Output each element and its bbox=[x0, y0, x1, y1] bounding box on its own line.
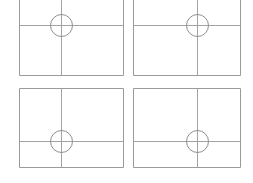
panels-group bbox=[20, 0, 241, 168]
panel-top-right-frame bbox=[134, 0, 241, 76]
panel-bottom-right bbox=[134, 89, 241, 168]
panel-grid-svg bbox=[0, 0, 253, 183]
panel-top-left-frame bbox=[20, 0, 124, 76]
panel-bottom-right-frame bbox=[134, 89, 241, 168]
panel-top-right bbox=[134, 0, 241, 76]
panel-bottom-left bbox=[20, 89, 124, 168]
panel-bottom-left-frame bbox=[20, 89, 124, 168]
panel-top-left bbox=[20, 0, 124, 76]
panel-grid bbox=[0, 0, 253, 183]
screenshot-canvas bbox=[0, 0, 253, 183]
